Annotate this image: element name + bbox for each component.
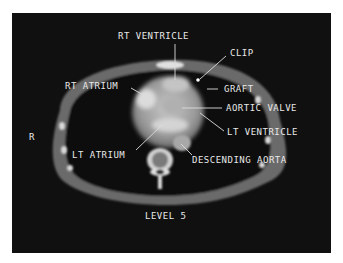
- clip-marker: [196, 78, 200, 82]
- ct-scan-image: RT VENTRICLE CLIP GRAFT RT ATRIUM AORTIC…: [0, 0, 343, 263]
- label-lt-atrium: LT ATRIUM: [72, 150, 125, 160]
- heart: [132, 76, 204, 148]
- label-rt-ventricle: RT VENTRICLE: [118, 31, 189, 41]
- descending-aorta: [173, 135, 191, 151]
- label-aortic-valve: AORTIC VALVE: [226, 103, 297, 113]
- label-level: LEVEL 5: [145, 211, 186, 221]
- label-graft: GRAFT: [224, 84, 254, 94]
- label-clip: CLIP: [230, 48, 254, 58]
- label-rt-atrium: RT ATRIUM: [65, 81, 118, 91]
- label-descending-aorta: DESCENDING AORTA: [192, 155, 287, 165]
- sternum: [156, 61, 184, 69]
- label-lt-ventricle: LT VENTRICLE: [227, 127, 298, 137]
- label-orientation-r: R: [29, 132, 35, 142]
